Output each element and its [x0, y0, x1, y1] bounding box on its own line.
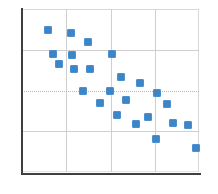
data-point[interactable] — [192, 144, 200, 152]
data-point[interactable] — [68, 51, 76, 59]
x-axis-label — [0, 0, 1, 1]
data-point[interactable] — [184, 121, 192, 129]
data-point[interactable] — [44, 26, 52, 34]
data-point[interactable] — [108, 50, 116, 58]
data-point[interactable] — [79, 87, 87, 95]
chart-title — [0, 0, 1, 1]
x-axis-line — [21, 173, 201, 175]
data-point[interactable] — [132, 120, 140, 128]
scatter-chart-figure — [0, 0, 218, 194]
y-axis-line — [21, 8, 23, 175]
y-axis-label — [0, 0, 1, 1]
data-point[interactable] — [86, 65, 94, 73]
data-point[interactable] — [113, 111, 121, 119]
gridline-horizontal-2 — [22, 131, 199, 132]
data-point[interactable] — [152, 135, 160, 143]
data-point[interactable] — [55, 60, 63, 68]
data-point[interactable] — [153, 89, 161, 97]
data-point[interactable] — [122, 96, 130, 104]
data-point[interactable] — [84, 38, 92, 46]
data-point[interactable] — [117, 73, 125, 81]
plot-area — [22, 9, 199, 172]
data-point[interactable] — [106, 87, 114, 95]
data-point[interactable] — [169, 119, 177, 127]
data-point[interactable] — [96, 99, 104, 107]
data-point[interactable] — [163, 100, 171, 108]
data-point[interactable] — [70, 65, 78, 73]
data-point[interactable] — [49, 50, 57, 58]
data-point[interactable] — [144, 113, 152, 121]
data-point[interactable] — [136, 79, 144, 87]
data-point[interactable] — [67, 29, 75, 37]
